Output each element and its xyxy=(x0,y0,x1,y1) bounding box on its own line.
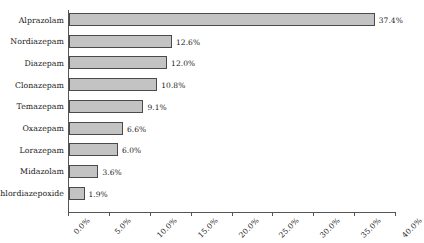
x-axis-tick-label: 10.0% xyxy=(155,216,179,240)
bar xyxy=(69,78,157,91)
x-axis-tick xyxy=(395,213,396,216)
bar-value-label: 6.6% xyxy=(127,125,146,134)
bar xyxy=(69,100,143,113)
bar-value-label: 3.6% xyxy=(102,168,121,177)
bar-value-label: 12.6% xyxy=(176,38,200,47)
bar-value-label: 10.8% xyxy=(161,81,185,90)
x-axis-tick xyxy=(354,213,355,216)
category-label: Temazepam xyxy=(17,102,64,111)
x-axis-tick-label: 35.0% xyxy=(359,216,383,240)
category-label: Alprazolam xyxy=(19,16,64,25)
category-label: Nordiazepam xyxy=(10,37,64,46)
bar xyxy=(69,56,167,69)
x-axis-tick-label: 20.0% xyxy=(237,216,261,240)
bar-value-label: 9.1% xyxy=(147,103,166,112)
x-axis-tick-label: 30.0% xyxy=(318,216,342,240)
x-axis-tick xyxy=(191,213,192,216)
x-axis-tick-label: 25.0% xyxy=(278,216,302,240)
category-label: Oxazepam xyxy=(22,124,64,133)
category-label: Lorazepam xyxy=(20,146,64,155)
bar xyxy=(69,143,118,156)
bar-value-label: 12.0% xyxy=(171,59,195,68)
bar xyxy=(69,122,123,135)
category-label: Chlordiazepoxide xyxy=(0,189,64,198)
category-label: Diazepam xyxy=(24,59,64,68)
x-axis-tick-label: 40.0% xyxy=(400,216,424,240)
bar-value-label: 6.0% xyxy=(122,146,141,155)
category-label: Midazolam xyxy=(20,167,64,176)
x-axis-tick xyxy=(68,213,69,216)
x-axis-tick xyxy=(232,213,233,216)
x-axis-tick xyxy=(150,213,151,216)
bar xyxy=(69,13,375,26)
bar-value-label: 37.4% xyxy=(379,16,403,25)
bar xyxy=(69,187,85,200)
x-axis-tick xyxy=(109,213,110,216)
bar-value-label: 1.9% xyxy=(89,190,108,199)
bar xyxy=(69,165,98,178)
bar xyxy=(69,35,172,48)
x-axis-tick-label: 15.0% xyxy=(196,216,220,240)
x-axis-tick xyxy=(272,213,273,216)
x-axis-tick-label: 0.0% xyxy=(72,216,92,236)
category-label: Clonazepam xyxy=(15,81,64,90)
x-axis-tick-label: 5.0% xyxy=(113,216,133,236)
x-axis-tick xyxy=(313,213,314,216)
